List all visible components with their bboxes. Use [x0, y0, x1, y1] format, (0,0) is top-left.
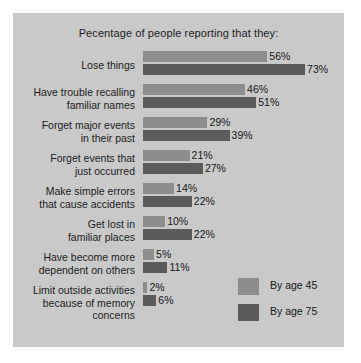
bar[interactable]: [143, 262, 167, 273]
chart-legend: By age 45By age 75: [238, 277, 344, 329]
bar-value-label: 21%: [190, 149, 213, 161]
bar[interactable]: [143, 295, 156, 306]
category-label-line: Forget events that: [13, 152, 135, 165]
bar[interactable]: [143, 163, 203, 174]
category-label-line: Get lost in: [13, 218, 135, 231]
bar-value-label: 14%: [174, 182, 197, 194]
bar[interactable]: [143, 183, 174, 194]
legend-label: By age 75: [270, 305, 317, 317]
bar-group: Forget events thatjust occurred21%27%: [13, 150, 344, 180]
category-label: Forget major eventsin their past: [13, 119, 135, 144]
category-label-line: familiar places: [13, 231, 135, 244]
bar-value-label: 11%: [167, 261, 189, 273]
category-label-line: Have become more: [13, 251, 135, 264]
bar[interactable]: [143, 117, 207, 128]
bar-value-label: 22%: [192, 195, 215, 207]
bar-value-label: 56%: [267, 50, 290, 62]
legend-swatch: [238, 304, 259, 321]
bar-value-label: 5%: [154, 248, 171, 260]
legend-swatch: [238, 278, 259, 295]
bar[interactable]: [143, 196, 192, 207]
category-label: Have become moredependent on others: [13, 251, 135, 276]
legend-label: By age 45: [270, 279, 317, 291]
bar-value-label: 46%: [245, 83, 268, 95]
category-label-line: just occurred: [13, 165, 135, 178]
bar[interactable]: [143, 229, 192, 240]
bar-value-label: 2%: [147, 281, 164, 293]
bar[interactable]: [143, 216, 165, 227]
bar-value-label: 22%: [192, 228, 215, 240]
bar-value-label: 10%: [165, 215, 188, 227]
bar-group: Have trouble recallingfamiliar names46%5…: [13, 84, 344, 114]
bar-group: Have become moredependent on others5%11%: [13, 249, 344, 279]
category-label-line: in their past: [13, 132, 135, 145]
category-label: Lose things: [13, 59, 135, 72]
bar-group: Forget major eventsin their past29%39%: [13, 117, 344, 147]
legend-item[interactable]: By age 45: [238, 277, 344, 303]
bar-value-label: 29%: [207, 116, 230, 128]
category-label-line: Limit outside activities: [13, 284, 135, 297]
category-label-line: Forget major events: [13, 119, 135, 132]
bar[interactable]: [143, 84, 245, 95]
chart-title: Pecentage of people reporting that they:: [13, 27, 344, 39]
bar[interactable]: [143, 249, 154, 260]
bar-value-label: 39%: [230, 129, 253, 141]
category-label-line: Lose things: [13, 59, 135, 72]
category-label: Get lost infamiliar places: [13, 218, 135, 243]
bar[interactable]: [143, 64, 305, 75]
category-label-line: that cause accidents: [13, 198, 135, 211]
bar[interactable]: [143, 150, 190, 161]
bar-value-label: 27%: [203, 162, 226, 174]
bar[interactable]: [143, 130, 230, 141]
chart-panel: Pecentage of people reporting that they:…: [13, 13, 344, 347]
category-label-line: dependent on others: [13, 264, 135, 277]
legend-item[interactable]: By age 75: [238, 303, 344, 329]
category-label-line: concerns: [13, 309, 135, 322]
bar-group: Lose things56%73%: [13, 51, 344, 81]
category-label: Limit outside activitiesbecause of memor…: [13, 284, 135, 322]
category-label-line: familiar names: [13, 99, 135, 112]
category-label: Make simple errorsthat cause accidents: [13, 185, 135, 210]
category-label-line: Have trouble recalling: [13, 86, 135, 99]
category-label-line: Make simple errors: [13, 185, 135, 198]
bar-group: Make simple errorsthat cause accidents14…: [13, 183, 344, 213]
bar-value-label: 51%: [256, 96, 279, 108]
category-label: Have trouble recallingfamiliar names: [13, 86, 135, 111]
bar-value-label: 6%: [156, 294, 173, 306]
bar[interactable]: [143, 51, 267, 62]
category-label: Forget events thatjust occurred: [13, 152, 135, 177]
bar[interactable]: [143, 97, 256, 108]
category-label-line: because of memory: [13, 297, 135, 310]
bar-value-label: 73%: [305, 63, 328, 75]
bar-group: Get lost infamiliar places10%22%: [13, 216, 344, 246]
